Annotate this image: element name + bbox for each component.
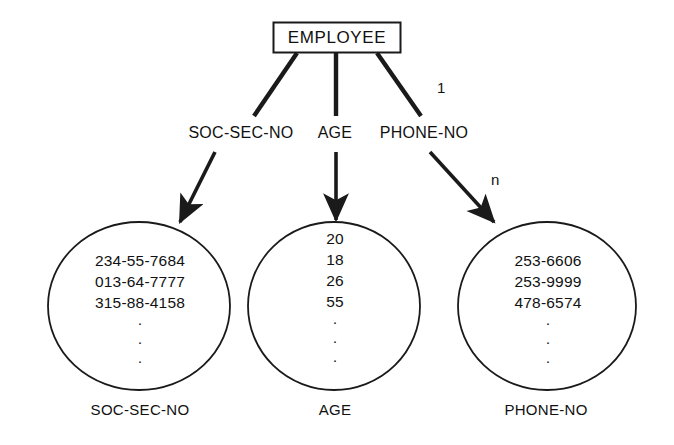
branch-line-soc (254, 53, 297, 116)
ellipsis-dot: · (58, 313, 222, 332)
cardinality-label-one: 1 (437, 79, 446, 96)
ellipsis-dot: · (258, 312, 412, 331)
diagram-canvas: EMPLOYEE SOC-SEC-NO AGE PHONE-NO 1 n 234… (0, 0, 674, 445)
ellipsis-dot: · (468, 351, 628, 370)
ellipsis-dot: · (468, 313, 628, 332)
valueset-values-phone-no: 253-6606 253-9999 478-6574 · · · (468, 250, 628, 370)
valueset-values-age: 20 18 26 55 · · · (258, 228, 412, 369)
valueset-caption-soc-sec-no: SOC-SEC-NO (50, 401, 230, 418)
valueset-item: 26 (258, 270, 412, 291)
valueset-item: 234-55-7684 (58, 250, 222, 271)
ellipsis-dot: · (258, 331, 412, 350)
entity-name-label: EMPLOYEE (273, 23, 401, 52)
arrow-phone-to-valueset (430, 152, 494, 222)
ellipsis-dot: · (58, 332, 222, 351)
valueset-item: 55 (258, 291, 412, 312)
valueset-item: 478-6574 (468, 292, 628, 313)
valueset-item: 315-88-4158 (58, 292, 222, 313)
ellipsis-dot: · (468, 332, 628, 351)
valueset-item: 253-6606 (468, 250, 628, 271)
valueset-item: 20 (258, 228, 412, 249)
valueset-item: 18 (258, 249, 412, 270)
branch-line-phone (377, 53, 421, 116)
attribute-label-phone-no: PHONE-NO (366, 124, 482, 142)
ellipsis-dot: · (58, 351, 222, 370)
cardinality-label-many: n (491, 171, 500, 188)
valueset-caption-phone-no: PHONE-NO (452, 401, 640, 418)
valueset-caption-age: AGE (256, 401, 414, 418)
attribute-label-age: AGE (308, 124, 362, 142)
attribute-label-soc-sec-no: SOC-SEC-NO (178, 124, 304, 142)
valueset-item: 013-64-7777 (58, 271, 222, 292)
valueset-values-soc-sec-no: 234-55-7684 013-64-7777 315-88-4158 · · … (58, 250, 222, 370)
arrow-soc-to-valueset (180, 152, 215, 222)
ellipsis-dot: · (258, 350, 412, 369)
diagram-graphics (0, 0, 674, 445)
valueset-item: 253-9999 (468, 271, 628, 292)
